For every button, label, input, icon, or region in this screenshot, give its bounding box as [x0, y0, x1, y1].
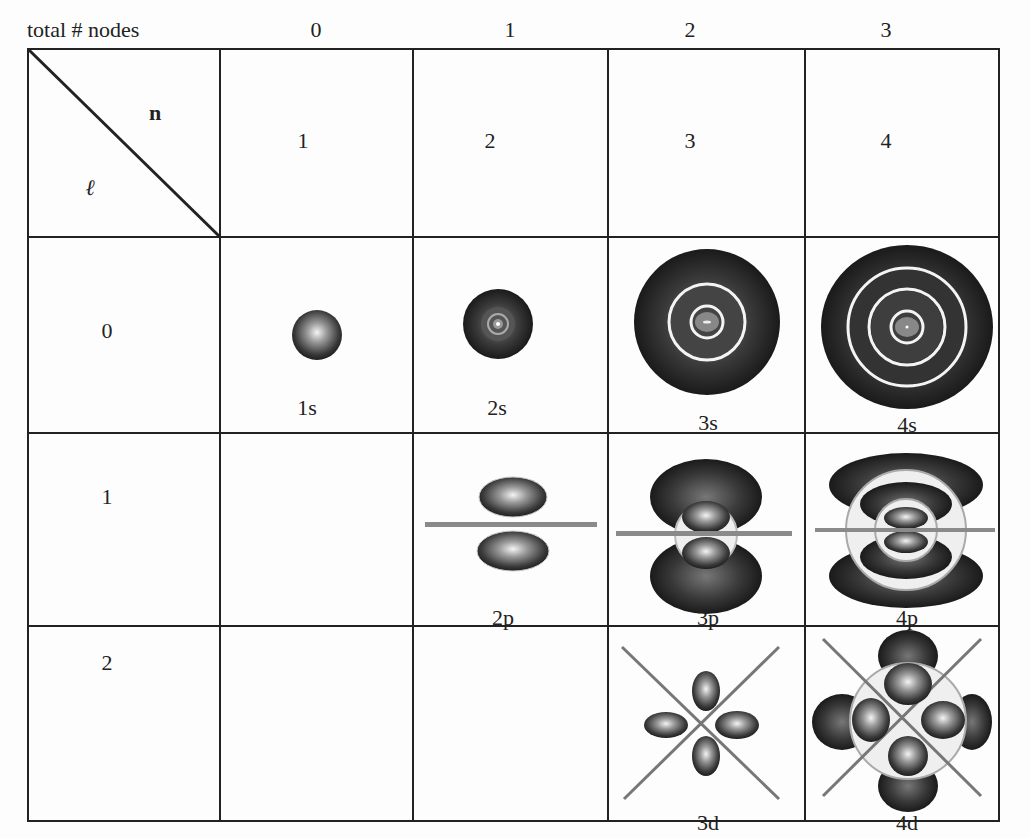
grid-divider — [607, 48, 609, 822]
orbital-4s-icon — [820, 244, 994, 410]
orbital-3s-icon — [634, 249, 782, 397]
node-count-2: 2 — [660, 18, 720, 42]
l-axis-label: ℓ — [60, 175, 120, 201]
node-count-3: 3 — [856, 18, 916, 42]
orbital-label-1s: 1s — [277, 395, 337, 421]
orbital-label-4s: 4s — [877, 412, 937, 438]
orbital-2s-icon — [463, 289, 535, 361]
n-value-3: 3 — [660, 128, 720, 154]
orbital-label-3d: 3d — [678, 810, 738, 836]
orbital-label-2p: 2p — [473, 605, 533, 631]
l-value-1: 1 — [77, 484, 137, 510]
orbital-3d-icon — [622, 645, 782, 805]
orbital-1s-icon — [292, 310, 344, 362]
orbital-4p-icon — [815, 440, 995, 620]
grid-divider — [804, 48, 806, 822]
corner-diagonal — [27, 48, 221, 238]
orbital-label-3p: 3p — [678, 605, 738, 631]
total-nodes-label: total # nodes — [27, 18, 139, 42]
orbital-label-4d: 4d — [877, 810, 937, 836]
l-value-0: 0 — [77, 318, 137, 344]
n-value-4: 4 — [856, 128, 916, 154]
n-axis-label: n — [125, 100, 185, 126]
orbital-2p-icon — [425, 475, 600, 595]
node-count-1: 1 — [480, 18, 540, 42]
orbital-3p-icon — [614, 455, 794, 625]
grid-divider — [412, 48, 414, 822]
orbital-label-2s: 2s — [467, 395, 527, 421]
l-value-2: 2 — [77, 650, 137, 676]
node-count-0: 0 — [286, 18, 346, 42]
grid-divider — [27, 432, 1000, 434]
orbital-4d-icon — [812, 628, 994, 818]
n-value-1: 1 — [273, 128, 333, 154]
n-value-2: 2 — [460, 128, 520, 154]
orbital-label-3s: 3s — [678, 410, 738, 436]
